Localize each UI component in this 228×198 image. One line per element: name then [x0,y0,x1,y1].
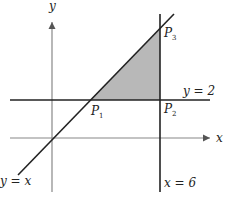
label-x-equals-6: x = 6 [164,176,196,190]
y-axis-label: y [48,0,56,13]
svg-text:1: 1 [99,112,103,120]
svg-text:3: 3 [172,34,176,42]
region-diagram: y x y = 2 x = 6 y = x P 1 P 2 P 3 [0,0,228,198]
point-p3-label: P 3 [163,26,176,42]
x-axis-label: x [216,131,223,145]
label-y-equals-x: y = x [0,174,31,188]
point-p2-label: P 2 [163,102,176,118]
label-y-equals-2: y = 2 [182,84,215,98]
svg-text:2: 2 [172,110,176,118]
point-p1-label: P 1 [90,104,103,120]
